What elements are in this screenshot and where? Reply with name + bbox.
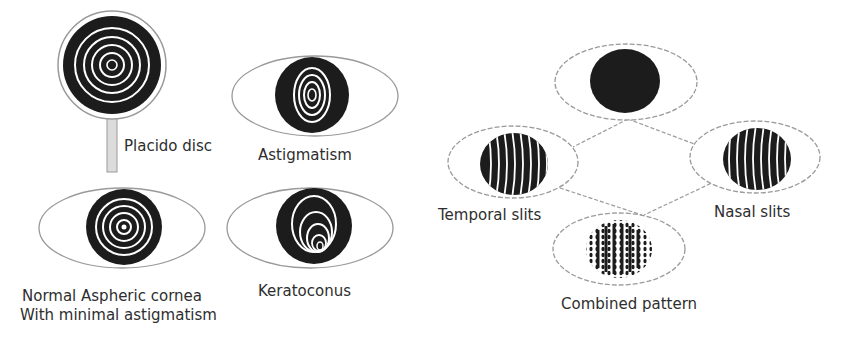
nasal-slits-label: Nasal slits <box>714 203 790 221</box>
astigmatism-label: Astigmatism <box>258 146 352 164</box>
top-eye-icon <box>555 44 697 120</box>
normal-cornea-label-line1: Normal Aspheric cornea <box>22 287 202 305</box>
temporal-slits-eye-icon <box>448 126 578 200</box>
placido-disc-label: Placido disc <box>124 137 212 155</box>
combined-pattern-label: Combined pattern <box>561 295 697 313</box>
normal-cornea-label-line2: With minimal astigmatism <box>20 306 217 324</box>
keratoconus-eye-icon <box>227 188 393 268</box>
normal-cornea-eye-icon <box>39 188 205 268</box>
keratoconus-label: Keratoconus <box>258 282 351 300</box>
astigmatism-eye-icon <box>232 56 398 136</box>
combined-pattern-eye-icon <box>553 213 685 285</box>
temporal-slits-label: Temporal slits <box>438 206 541 224</box>
